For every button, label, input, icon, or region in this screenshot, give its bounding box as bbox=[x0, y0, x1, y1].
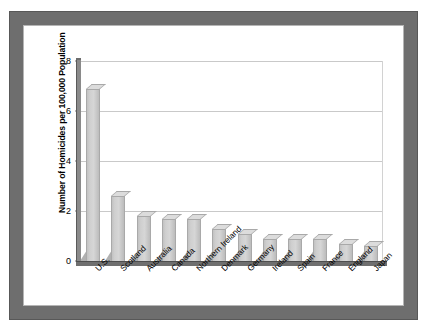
bar-chart: Number of Homicides per 100,000 Populati… bbox=[24, 26, 403, 305]
chart-frame-inner: Number of Homicides per 100,000 Populati… bbox=[23, 25, 404, 306]
chart-frame: Number of Homicides per 100,000 Populati… bbox=[9, 11, 418, 320]
y-axis-cap bbox=[76, 58, 81, 60]
bar-slot[interactable] bbox=[80, 61, 105, 261]
bar-slot[interactable] bbox=[105, 61, 130, 261]
bar-top-face bbox=[111, 191, 131, 196]
x-axis-labels: U.S.ScotlandAustraliaCanadaNorthern Irel… bbox=[80, 266, 383, 331]
bar-top-face bbox=[288, 234, 308, 239]
bar-slot[interactable] bbox=[307, 61, 332, 261]
bar-slot[interactable] bbox=[156, 61, 181, 261]
bar-top-face bbox=[162, 214, 182, 219]
y-axis-tick-label: 0 bbox=[51, 256, 71, 266]
bar-top-face bbox=[187, 214, 207, 219]
bar-slot[interactable] bbox=[257, 61, 282, 261]
bar-slot[interactable] bbox=[333, 61, 358, 261]
bar-top-face bbox=[263, 234, 283, 239]
bar-slot[interactable] bbox=[131, 61, 156, 261]
cut-off-title bbox=[0, 0, 427, 9]
y-axis-tick-label: 4 bbox=[51, 156, 71, 166]
bar-top-face bbox=[86, 84, 106, 89]
bar-top-face bbox=[313, 234, 333, 239]
bar-top-face bbox=[212, 224, 232, 229]
bar-slot[interactable] bbox=[282, 61, 307, 261]
y-axis-tick-label: 2 bbox=[51, 206, 71, 216]
bar-slot[interactable] bbox=[358, 61, 383, 261]
y-axis-line bbox=[76, 59, 81, 263]
bar-top-face bbox=[137, 211, 157, 216]
bar-top-face bbox=[339, 239, 359, 244]
y-axis-tick-label: 6 bbox=[51, 106, 71, 116]
bar[interactable] bbox=[111, 196, 125, 261]
y-axis-tick-label: 8 bbox=[51, 56, 71, 66]
bar-slot[interactable] bbox=[181, 61, 206, 261]
bar[interactable] bbox=[86, 89, 100, 262]
